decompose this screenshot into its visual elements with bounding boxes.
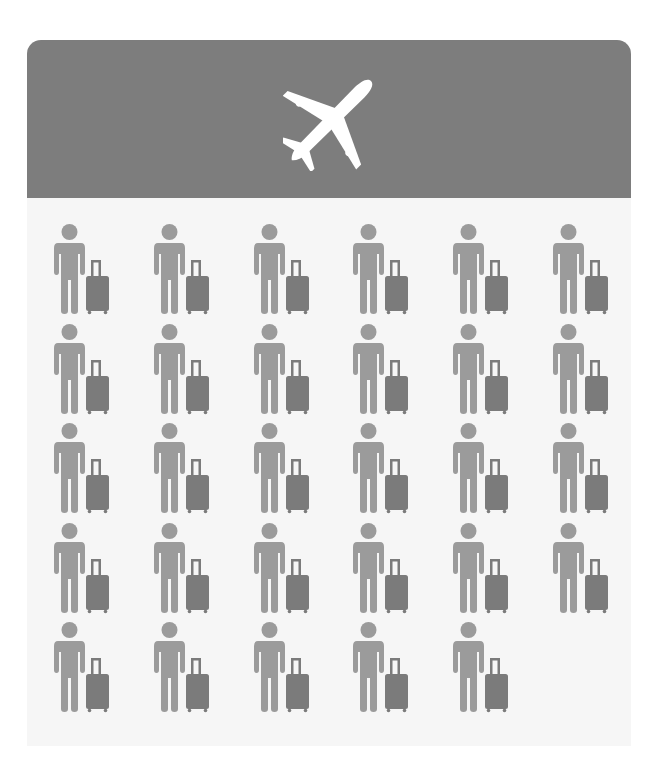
person-icon xyxy=(54,324,85,414)
person-icon xyxy=(353,622,384,712)
suitcase-icon xyxy=(186,559,209,613)
suitcase-icon xyxy=(385,459,408,513)
traveler-icon xyxy=(54,622,114,714)
traveler-icon xyxy=(54,324,114,416)
suitcase-icon xyxy=(585,559,608,613)
traveler-icon xyxy=(553,224,613,316)
person-icon xyxy=(453,423,484,513)
traveler-icon xyxy=(353,523,413,615)
person-icon xyxy=(353,324,384,414)
airplane-icon xyxy=(283,73,377,171)
person-icon xyxy=(254,324,285,414)
traveler-icon xyxy=(453,622,513,714)
header-banner xyxy=(27,40,631,198)
traveler-icon xyxy=(54,423,114,515)
traveler-icon xyxy=(453,324,513,416)
person-icon xyxy=(154,622,185,712)
traveler-icon xyxy=(154,324,214,416)
suitcase-icon xyxy=(186,360,209,414)
traveler-icon xyxy=(154,224,214,316)
suitcase-icon xyxy=(485,360,508,414)
person-icon xyxy=(553,224,584,314)
suitcase-icon xyxy=(585,260,608,314)
traveler-icon xyxy=(154,423,214,515)
suitcase-icon xyxy=(86,559,109,613)
suitcase-icon xyxy=(86,658,109,712)
person-icon xyxy=(453,523,484,613)
person-icon xyxy=(553,324,584,414)
suitcase-icon xyxy=(286,360,309,414)
traveler-icon xyxy=(553,423,613,515)
person-icon xyxy=(54,224,85,314)
travelers-grid: 29 xyxy=(27,198,631,746)
traveler-icon xyxy=(254,324,314,416)
person-icon xyxy=(254,224,285,314)
person-icon xyxy=(453,622,484,712)
person-icon xyxy=(54,523,85,613)
traveler-icon xyxy=(453,423,513,515)
suitcase-icon xyxy=(385,658,408,712)
person-icon xyxy=(154,423,185,513)
traveler-icon xyxy=(353,622,413,714)
traveler-count: 29 xyxy=(27,198,28,199)
suitcase-icon xyxy=(485,459,508,513)
suitcase-icon xyxy=(286,459,309,513)
traveler-icon xyxy=(353,324,413,416)
traveler-icon xyxy=(553,523,613,615)
suitcase-icon xyxy=(385,559,408,613)
person-icon xyxy=(254,622,285,712)
traveler-icon xyxy=(54,224,114,316)
person-icon xyxy=(353,423,384,513)
person-icon xyxy=(353,523,384,613)
suitcase-icon xyxy=(286,559,309,613)
person-icon xyxy=(453,224,484,314)
person-icon xyxy=(254,523,285,613)
traveler-icon xyxy=(553,324,613,416)
traveler-icon xyxy=(453,224,513,316)
suitcase-icon xyxy=(385,260,408,314)
suitcase-icon xyxy=(186,260,209,314)
suitcase-icon xyxy=(585,459,608,513)
suitcase-icon xyxy=(186,658,209,712)
suitcase-icon xyxy=(86,459,109,513)
suitcase-icon xyxy=(485,559,508,613)
traveler-icon xyxy=(154,523,214,615)
suitcase-icon xyxy=(585,360,608,414)
person-icon xyxy=(254,423,285,513)
traveler-icon xyxy=(254,224,314,316)
person-icon xyxy=(154,324,185,414)
suitcase-icon xyxy=(286,658,309,712)
traveler-icon xyxy=(254,622,314,714)
traveler-icon xyxy=(453,523,513,615)
suitcase-icon xyxy=(485,260,508,314)
suitcase-icon xyxy=(385,360,408,414)
traveler-icon xyxy=(54,523,114,615)
person-icon xyxy=(353,224,384,314)
person-icon xyxy=(553,423,584,513)
traveler-icon xyxy=(154,622,214,714)
traveler-icon xyxy=(254,523,314,615)
traveler-icon xyxy=(254,423,314,515)
suitcase-icon xyxy=(186,459,209,513)
suitcase-icon xyxy=(485,658,508,712)
infographic-canvas: 29 xyxy=(0,0,658,768)
traveler-icon xyxy=(353,423,413,515)
suitcase-icon xyxy=(286,260,309,314)
traveler-icon xyxy=(353,224,413,316)
person-icon xyxy=(154,224,185,314)
person-icon xyxy=(553,523,584,613)
person-icon xyxy=(154,523,185,613)
travel-card: 29 xyxy=(27,40,631,746)
person-icon xyxy=(54,622,85,712)
person-icon xyxy=(453,324,484,414)
suitcase-icon xyxy=(86,260,109,314)
suitcase-icon xyxy=(86,360,109,414)
person-icon xyxy=(54,423,85,513)
